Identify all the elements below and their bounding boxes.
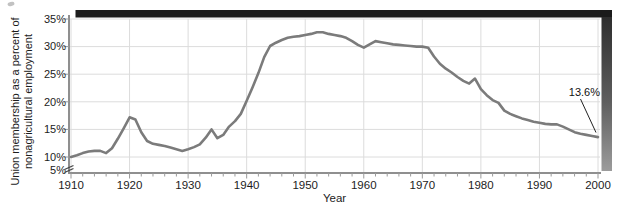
right-shadow-bar [602, 17, 613, 171]
x-tick-label: 1980 [468, 179, 494, 191]
annotation-callout-line [581, 99, 597, 133]
x-tick-label: 1970 [410, 179, 436, 191]
x-tick-label: 2000 [585, 179, 611, 191]
y-tick-label: 10% [44, 151, 66, 163]
chart-render-layer: 35%30%25%20%15%10%5%19101920193019401950… [44, 10, 612, 191]
y-tick-label: 5% [50, 164, 66, 176]
x-tick-label: 1990 [527, 179, 553, 191]
y-tick-label: 25% [44, 68, 66, 80]
scan-artifact [7, 1, 15, 7]
union-membership-figure: Union membership as a percent of nonagri… [0, 0, 620, 214]
x-tick-label: 1960 [351, 179, 377, 191]
x-axis-title: Year [323, 192, 346, 204]
y-tick-label: 15% [44, 123, 66, 135]
x-tick-label: 1910 [58, 179, 84, 191]
x-tick-label: 1950 [292, 179, 318, 191]
union-membership-chart: 35%30%25%20%15%10%5%19101920193019401950… [0, 0, 620, 214]
x-tick-label: 1920 [117, 179, 143, 191]
top-shadow-bar [76, 10, 613, 18]
y-tick-label: 30% [44, 40, 66, 52]
y-tick-label: 35% [44, 13, 66, 25]
annotation-label: 13.6% [569, 86, 600, 98]
x-tick-label: 1930 [175, 179, 201, 191]
y-tick-label: 20% [44, 96, 66, 108]
data-line-union-membership [71, 32, 598, 157]
x-tick-label: 1940 [234, 179, 260, 191]
